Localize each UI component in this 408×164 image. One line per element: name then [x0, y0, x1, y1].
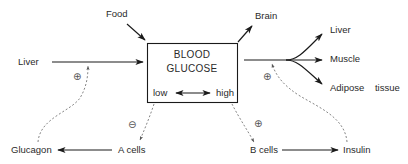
insulin-to-uptake-dashed	[272, 64, 347, 142]
brain-label: Brain	[255, 10, 277, 21]
blood-glucose-box: BLOOD GLUCOSE low high	[148, 44, 238, 103]
box-title-line1: BLOOD	[174, 49, 211, 60]
low-to-a-cells-dashed	[140, 104, 154, 140]
food-label: Food	[106, 8, 128, 19]
plus-sign-icon: ⊕	[73, 71, 81, 82]
glucagon-label: Glucagon	[11, 144, 52, 155]
brain-arrow	[238, 26, 252, 42]
liver-output-arrow	[286, 34, 322, 60]
adipose-tissue-label: Adipose tissue	[330, 82, 400, 93]
glucose-regulation-diagram: BLOOD GLUCOSE low high Food Liver Brain …	[0, 0, 408, 164]
food-arrow	[127, 24, 145, 40]
a-cells-label: A cells	[118, 144, 146, 155]
minus-sign-icon: ⊖	[128, 119, 136, 130]
adipose-output-arrow	[286, 60, 322, 84]
peripheral-uptake-arrows	[244, 34, 322, 84]
liver-output-label: Liver	[330, 24, 351, 35]
insulin-label: Insulin	[343, 144, 370, 155]
box-title-line2: GLUCOSE	[166, 63, 217, 74]
plus-sign-icon: ⊕	[263, 71, 271, 82]
high-to-b-cells-dashed	[232, 104, 254, 142]
low-label: low	[153, 87, 167, 98]
liver-input-label: Liver	[18, 56, 39, 67]
high-label: high	[216, 87, 234, 98]
muscle-label: Muscle	[330, 53, 360, 64]
plus-sign-icon: ⊕	[254, 118, 262, 129]
b-cells-label: B cells	[250, 144, 278, 155]
